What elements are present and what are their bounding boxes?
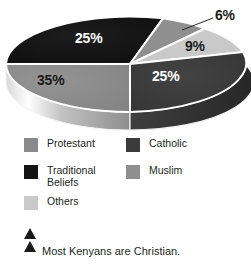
legend-swatch-others (24, 196, 38, 210)
legend-swatch-catholic (126, 138, 140, 152)
slice-label-muslim: 6% (215, 8, 235, 22)
pie-chart-figure: 35% 25% 25% 6% 9% Protestant Catholic Tr… (0, 0, 251, 270)
legend-item-others[interactable]: Others (24, 196, 79, 210)
legend-label-muslim: Muslim (149, 165, 182, 177)
legend-swatch-muslim (126, 165, 140, 179)
pie-top-faces (6, 17, 246, 112)
legend-item-protestant[interactable]: Protestant (24, 138, 95, 152)
pie-chart-svg (0, 0, 251, 133)
legend-item-catholic[interactable]: Catholic (126, 138, 187, 152)
legend-label-others: Others (47, 196, 79, 208)
caption-text: Most Kenyans are Christian. (42, 245, 180, 258)
slice-label-others: 9% (185, 39, 205, 53)
legend-swatch-traditional-beliefs (24, 165, 38, 179)
pie-chart-graphic: 35% 25% 25% 6% 9% (0, 0, 251, 133)
slice-label-protestant: 35% (37, 73, 64, 87)
legend-swatch-protestant (24, 138, 38, 152)
triangle-up-icon (24, 241, 36, 252)
legend-label-traditional-beliefs: Traditional Beliefs (47, 165, 119, 188)
slice-label-traditional-beliefs: 25% (75, 31, 102, 45)
triangle-up-icon (24, 228, 36, 239)
legend-item-traditional-beliefs[interactable]: Traditional Beliefs (24, 165, 119, 188)
legend-label-protestant: Protestant (47, 138, 95, 150)
slice-label-catholic: 25% (152, 69, 179, 83)
chart-legend: Protestant Catholic Traditional Beliefs … (24, 138, 239, 218)
caption-markers (24, 228, 38, 258)
legend-item-muslim[interactable]: Muslim (126, 165, 182, 179)
legend-label-catholic: Catholic (149, 138, 187, 150)
